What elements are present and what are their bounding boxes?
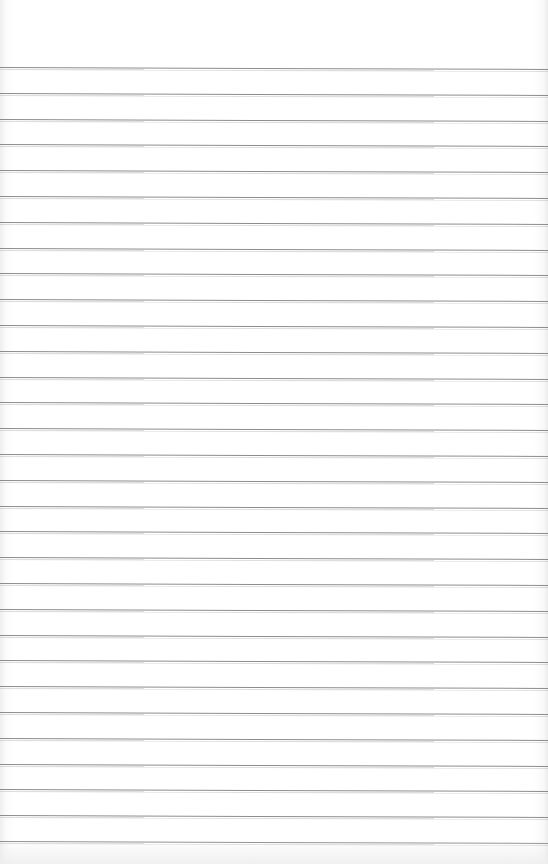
ruled-line [0,428,548,432]
ruled-line [0,660,548,664]
ruled-line [0,273,548,277]
ruled-line [0,480,548,484]
ruled-line [0,248,548,252]
ruled-line [0,93,548,97]
lined-paper-sheet [0,0,548,864]
ruled-line [0,789,548,793]
ruled-line [0,531,548,535]
ruled-line [0,325,548,329]
ruled-line [0,738,548,742]
ruled-line [0,583,548,587]
ruled-line [0,557,548,561]
ruled-line [0,712,548,716]
ruled-line [0,686,548,690]
ruled-line [0,67,548,71]
ruled-line [0,222,548,226]
ruled-line [0,299,548,303]
ruled-line [0,119,548,123]
ruled-line [0,144,548,148]
ruled-line [0,635,548,639]
ruled-line [0,454,548,458]
ruled-line [0,402,548,406]
ruled-line [0,196,548,200]
ruled-line [0,764,548,768]
ruled-line [0,506,548,510]
ruled-line [0,841,548,845]
ruled-line [0,377,548,381]
ruled-line [0,815,548,819]
ruled-line [0,170,548,174]
ruled-line [0,351,548,355]
ruled-line [0,609,548,613]
